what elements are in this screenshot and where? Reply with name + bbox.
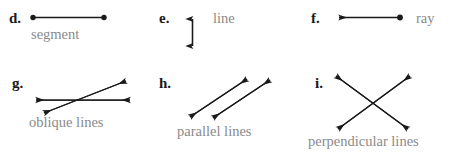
item-letter-g: g. (12, 76, 23, 91)
worksheet-figure-sheet: d. segment e. line f. (0, 0, 453, 160)
caption-parallel-lines: parallel lines (177, 124, 251, 139)
caption-ray: ray (416, 11, 435, 26)
caption-segment: segment (31, 27, 79, 42)
item-letter-d: d. (9, 11, 21, 26)
item-letter-i: i. (315, 76, 323, 91)
item-letter-f: f. (311, 11, 320, 26)
caption-perpendicular-lines: perpendicular lines (308, 134, 419, 149)
item-letter-h: h. (159, 76, 171, 91)
caption-line: line (213, 11, 235, 26)
caption-oblique-lines: oblique lines (29, 115, 104, 130)
item-letter-e: e. (159, 11, 169, 26)
